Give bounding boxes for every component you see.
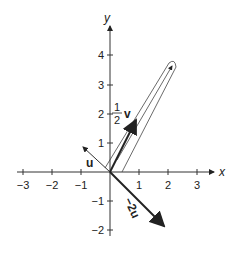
y-tick-label: 3 xyxy=(98,79,104,91)
u-label: u xyxy=(86,156,93,170)
x-tick-label: −2 xyxy=(46,179,59,191)
x-tick-label: −3 xyxy=(17,179,30,191)
coordinate-plane: −3 −2 −1 1 2 3 4 3 2 1 −1 −2 x y u 1 xyxy=(0,0,231,257)
svg-text:v: v xyxy=(124,107,131,121)
half-v-vector xyxy=(110,120,136,172)
y-tick-label: 1 xyxy=(98,137,104,149)
y-tick-label: −1 xyxy=(91,195,104,207)
svg-text:2: 2 xyxy=(114,114,120,126)
y-tick-label: 4 xyxy=(98,49,104,61)
x-axis-label: x xyxy=(218,165,226,179)
vector-diagram: −3 −2 −1 1 2 3 4 3 2 1 −1 −2 x y u 1 xyxy=(0,0,231,257)
half-v-label: 1 2 v xyxy=(112,101,131,126)
x-tick-label: 2 xyxy=(165,179,171,191)
x-tick-label: 3 xyxy=(194,179,200,191)
y-tick-label: 2 xyxy=(98,108,104,120)
y-tick-label: −2 xyxy=(91,224,104,236)
x-tick-label: −1 xyxy=(75,179,88,191)
y-axis-label: y xyxy=(103,11,111,25)
neg-2u-label: −2u xyxy=(121,195,143,220)
x-tick-label: 1 xyxy=(136,179,142,191)
svg-text:1: 1 xyxy=(114,101,120,113)
